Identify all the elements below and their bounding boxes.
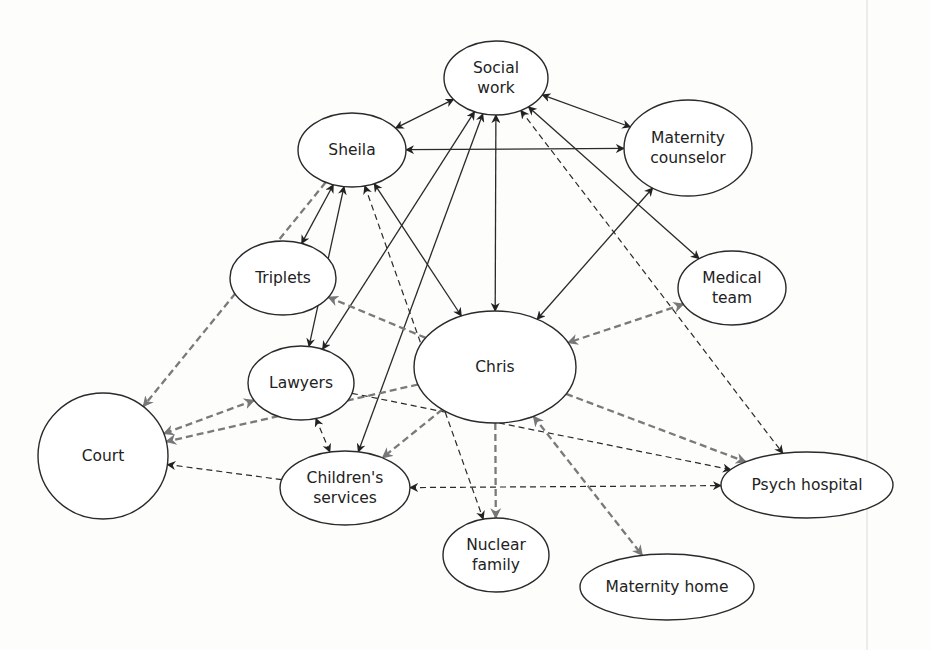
edge-chris-to-psych-hospital <box>566 394 746 462</box>
node-label: Maternity <box>651 129 725 147</box>
node-label: Children's <box>307 469 384 487</box>
node-maternity-counselor: Maternitycounselor <box>624 100 752 196</box>
edge-childrens-services-to-psych-hospital <box>410 486 721 488</box>
network-diagram: SocialworkMaternitycounselorSheilaTriple… <box>0 0 931 650</box>
node-label: Nuclear <box>466 536 526 554</box>
node-social-work: Socialwork <box>444 41 548 115</box>
edge-lawyers-to-childrens-services <box>316 419 330 453</box>
node-sheila: Sheila <box>298 113 406 187</box>
node-lawyers: Lawyers <box>248 346 354 420</box>
node-label: Lawyers <box>269 374 333 392</box>
node-shape <box>280 451 410 525</box>
node-psych-hospital: Psych hospital <box>721 452 893 518</box>
node-medical-team: Medicalteam <box>678 251 786 325</box>
node-shape <box>444 41 548 115</box>
node-maternity-home: Maternity home <box>580 554 754 620</box>
node-label: Psych hospital <box>751 476 862 494</box>
node-label: family <box>472 556 520 574</box>
edge-sheila-to-chris <box>374 184 461 316</box>
edge-medical-team-to-chris <box>568 304 683 343</box>
node-label: team <box>712 289 752 307</box>
node-chris: Chris <box>414 311 576 423</box>
edge-social-work-to-chris <box>495 115 496 311</box>
node-nuclear-family: Nuclearfamily <box>443 518 549 592</box>
node-label: counselor <box>650 149 726 167</box>
edge-chris-to-nuclear-family <box>495 423 496 518</box>
node-label: Medical <box>702 269 761 287</box>
node-label: Triplets <box>254 269 311 287</box>
edge-sheila-to-maternity-counselor <box>406 148 624 149</box>
node-shape <box>443 518 549 592</box>
node-label: services <box>313 489 377 507</box>
nodes-layer: SocialworkMaternitycounselorSheilaTriple… <box>38 41 893 620</box>
node-label: Maternity home <box>606 578 729 596</box>
node-shape <box>678 251 786 325</box>
node-label: Social <box>473 59 519 77</box>
edge-social-work-to-maternity-counselor <box>542 95 630 127</box>
node-label: Chris <box>475 358 514 376</box>
node-shape <box>624 100 752 196</box>
node-label: work <box>477 79 515 97</box>
edge-sheila-to-social-work <box>396 99 454 128</box>
node-label: Sheila <box>328 141 375 159</box>
node-triplets: Triplets <box>230 241 336 315</box>
edge-childrens-services-to-court <box>167 465 281 480</box>
node-court: Court <box>38 393 168 519</box>
edge-lawyers-to-court <box>164 400 254 433</box>
node-childrens-services: Children'sservices <box>280 451 410 525</box>
edge-chris-to-childrens-services <box>383 410 443 458</box>
node-label: Court <box>82 447 125 465</box>
